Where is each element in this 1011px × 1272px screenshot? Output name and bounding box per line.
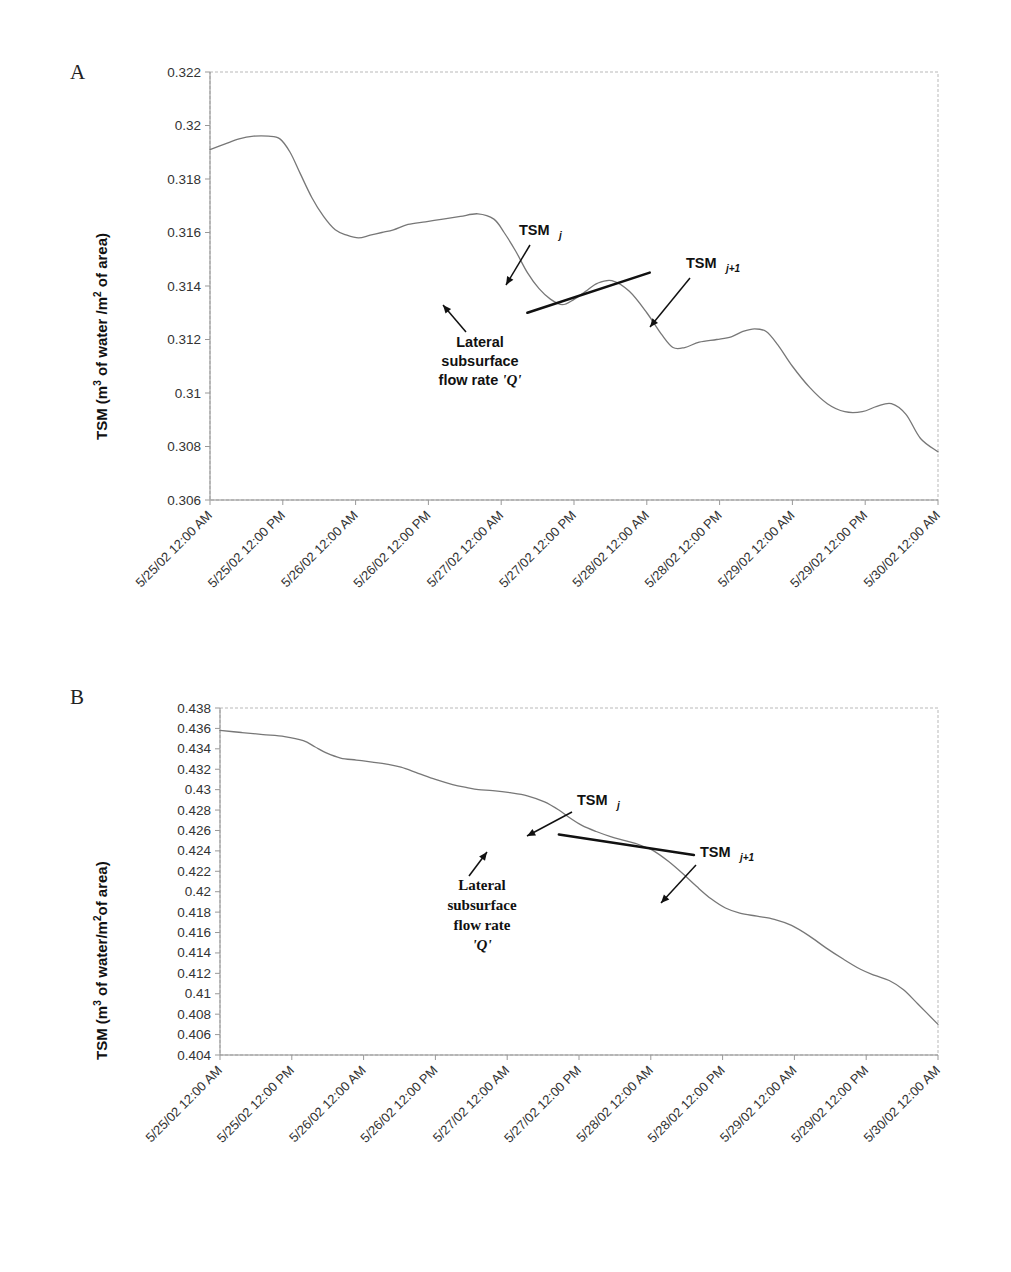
- lateral-flow-label-line2: subsurface: [441, 353, 518, 369]
- tsm-j-arrow: [527, 812, 572, 836]
- y-tick-label: 0.314: [167, 279, 201, 294]
- lateral-flow-arrow: [469, 852, 487, 876]
- y-tick-label: 0.412: [177, 966, 211, 981]
- lateral-flow-arrow: [443, 305, 466, 332]
- lateral-flow-label-q: 'Q': [502, 372, 521, 388]
- y-tick-label: 0.404: [177, 1048, 211, 1063]
- y-tick-label: 0.408: [177, 1007, 211, 1022]
- lateral-flow-label-q: 'Q': [472, 937, 491, 953]
- chart-b: 0.4380.4360.4340.4320.430.4280.4260.4240…: [0, 660, 1011, 1272]
- x-tick-label: 5/25/02 12:00 PM: [205, 508, 288, 591]
- y-tick-label: 0.418: [177, 905, 211, 920]
- x-tick-label: 5/27/02 12:00 PM: [496, 508, 579, 591]
- y-tick-label: 0.416: [177, 925, 211, 940]
- y-tick-label: 0.306: [167, 493, 201, 508]
- x-tick-label: 5/27/02 12:00 AM: [424, 508, 507, 591]
- tsm-j-label: TSM: [577, 792, 608, 808]
- lateral-flow-label-line3: flow rate 'Q': [439, 372, 522, 388]
- x-tick-label: 5/28/02 12:00 PM: [642, 508, 725, 591]
- x-tick-label: 5/30/02 12:00 AM: [860, 1063, 943, 1146]
- x-tick-label: 5/28/02 12:00 AM: [573, 1063, 656, 1146]
- y-axis-ticks: 0.4380.4360.4340.4320.430.4280.4260.4240…: [177, 701, 220, 1063]
- tsm-j-plus-1-label: TSM: [700, 844, 731, 860]
- y-axis-ticks: 0.3220.320.3180.3160.3140.3120.310.3080.…: [167, 65, 210, 508]
- y-tick-label: 0.32: [175, 118, 201, 133]
- plot-axes: [220, 708, 938, 1055]
- y-tick-label: 0.434: [177, 741, 211, 756]
- x-tick-label: 5/28/02 12:00 AM: [569, 508, 652, 591]
- tsm-data-line: [210, 136, 938, 452]
- x-tick-label: 5/25/02 12:00 AM: [132, 508, 215, 591]
- lateral-flow-tangent-line: [559, 835, 694, 855]
- y-tick-label: 0.436: [177, 721, 211, 736]
- y-tick-label: 0.406: [177, 1027, 211, 1042]
- x-tick-label: 5/28/02 12:00 PM: [645, 1063, 728, 1146]
- y-tick-label: 0.43: [185, 782, 211, 797]
- y-tick-label: 0.316: [167, 225, 201, 240]
- x-tick-label: 5/29/02 12:00 AM: [715, 508, 798, 591]
- x-tick-label: 5/29/02 12:00 PM: [787, 508, 870, 591]
- y-tick-label: 0.422: [177, 864, 211, 879]
- x-tick-label: 5/26/02 12:00 AM: [278, 508, 361, 591]
- y-tick-label: 0.424: [177, 843, 211, 858]
- x-tick-label: 5/26/02 12:00 PM: [357, 1063, 440, 1146]
- y-tick-label: 0.432: [177, 762, 211, 777]
- y-tick-label: 0.426: [177, 823, 211, 838]
- x-tick-label: 5/29/02 12:00 AM: [717, 1063, 800, 1146]
- tsm-j-label: TSM: [519, 222, 550, 238]
- tsm-j-arrow: [506, 245, 530, 285]
- tsm-data-line: [220, 730, 938, 1024]
- y-tick-label: 0.308: [167, 439, 201, 454]
- panel-a: A TSM (m3 of water /m2 of area) 0.3220.3…: [0, 0, 1011, 660]
- lateral-flow-arrow-head: [479, 852, 487, 861]
- tsm-j-plus-1-arrow-shaft: [650, 278, 690, 327]
- lateral-flow-label-line1: Lateral: [456, 334, 504, 350]
- plot-area-border: [210, 72, 938, 500]
- x-tick-label: 5/27/02 12:00 PM: [501, 1063, 584, 1146]
- x-tick-label: 5/27/02 12:00 AM: [430, 1063, 513, 1146]
- tsm-j-plus-1-subscript: j+1: [724, 263, 741, 274]
- tsm-j-subscript: j: [557, 230, 562, 241]
- y-tick-label: 0.438: [177, 701, 211, 716]
- lateral-flow-label-line1: Lateral: [458, 877, 505, 893]
- panel-b: B TSM (m3 of water/m2of area) 0.4380.436…: [0, 660, 1011, 1272]
- chart-a: 0.3220.320.3180.3160.3140.3120.310.3080.…: [0, 0, 1011, 660]
- x-tick-label: 5/25/02 12:00 PM: [214, 1063, 297, 1146]
- x-axis-ticks: 5/25/02 12:00 AM5/25/02 12:00 PM5/26/02 …: [142, 1055, 943, 1146]
- tsm-j-plus-1-arrow: [650, 278, 690, 327]
- plot-axes: [210, 72, 938, 500]
- y-tick-label: 0.41: [185, 986, 211, 1001]
- x-tick-label: 5/26/02 12:00 PM: [350, 508, 433, 591]
- y-tick-label: 0.312: [167, 332, 201, 347]
- lateral-flow-label-line2: subsurface: [447, 897, 517, 913]
- x-tick-label: 5/26/02 12:00 AM: [286, 1063, 369, 1146]
- y-tick-label: 0.318: [167, 172, 201, 187]
- lateral-flow-label-line3: flow rate: [453, 917, 510, 933]
- x-tick-label: 5/25/02 12:00 AM: [142, 1063, 225, 1146]
- tsm-j-plus-1-label: TSM: [686, 255, 717, 271]
- y-tick-label: 0.428: [177, 803, 211, 818]
- y-tick-label: 0.31: [175, 386, 201, 401]
- x-tick-label: 5/29/02 12:00 PM: [788, 1063, 871, 1146]
- y-tick-label: 0.322: [167, 65, 201, 80]
- tsm-j-subscript: j: [615, 800, 620, 811]
- y-tick-label: 0.414: [177, 945, 211, 960]
- plot-area-border: [220, 708, 938, 1055]
- x-axis-ticks: 5/25/02 12:00 AM5/25/02 12:00 PM5/26/02 …: [132, 500, 943, 591]
- y-tick-label: 0.42: [185, 884, 211, 899]
- x-tick-label: 5/30/02 12:00 AM: [860, 508, 943, 591]
- tsm-j-plus-1-subscript: j+1: [738, 852, 755, 863]
